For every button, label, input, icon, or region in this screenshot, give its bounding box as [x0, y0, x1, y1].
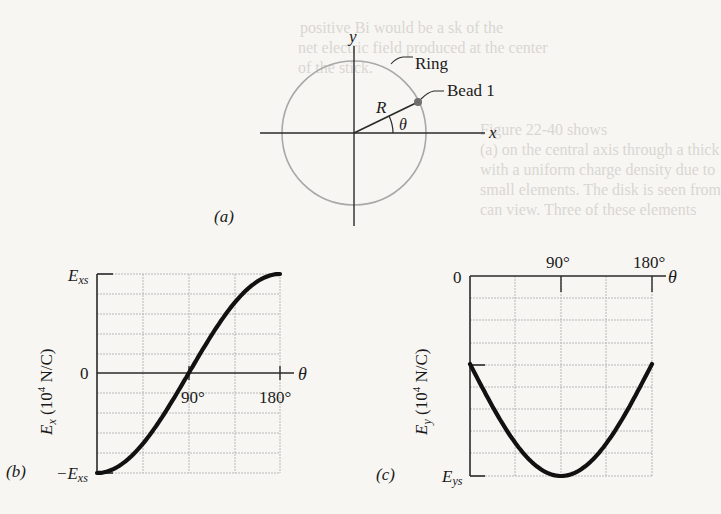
bead-1 — [414, 98, 422, 106]
grid — [470, 276, 652, 476]
y-tick-bottom: −Exs — [56, 464, 88, 485]
y-tick-top: Exs — [67, 266, 89, 287]
tick-label-180: 180° — [259, 388, 291, 407]
ring-label: Ring — [415, 54, 449, 73]
panel-c-label: (c) — [376, 465, 395, 484]
y-tick-zero: 0 — [80, 364, 89, 383]
y-axis-label: y — [347, 27, 357, 46]
theta-label: θ — [298, 364, 307, 384]
theta-label: θ — [668, 267, 677, 287]
y-tick-bottom: Eys — [441, 467, 463, 488]
bead-leader-line — [421, 91, 444, 99]
panel-b-label: (b) — [6, 462, 26, 481]
ring-leader-line — [391, 57, 413, 64]
tick-label-90: 90° — [181, 388, 205, 407]
angle-label: θ — [399, 116, 407, 133]
tick-label-180: 180° — [633, 253, 665, 272]
panel-a-ring-diagram: y x Ring Bead 1 R θ (a) — [214, 27, 497, 226]
x-axis-label: x — [488, 123, 497, 142]
angle-arc — [389, 116, 393, 133]
panel-c-ey-graph: θ 90° 180° 0 Eys Ey (104 N/C) (c) — [376, 253, 677, 488]
panel-a-label: (a) — [214, 207, 234, 226]
y-tick-zero: 0 — [453, 268, 462, 287]
tick-label-90: 90° — [546, 253, 570, 272]
radius-label: R — [375, 98, 387, 117]
y-axis-title: Ex (104 N/C) — [35, 349, 59, 436]
bead-label: Bead 1 — [447, 81, 495, 100]
y-axis-title: Ey (104 N/C) — [410, 349, 434, 436]
panel-b-ex-graph: θ 90° 180° Exs 0 −Exs Ex (104 N/C) (b) — [6, 266, 307, 485]
